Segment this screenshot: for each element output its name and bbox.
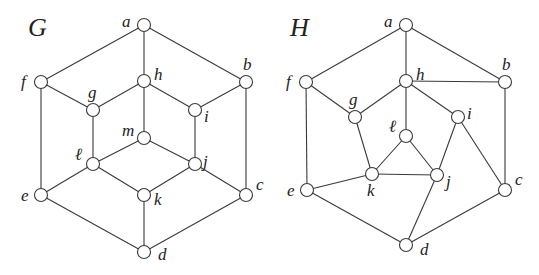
- edge-i-j: [437, 117, 458, 175]
- vertex-label-h: h: [154, 65, 163, 84]
- edge-e-d: [41, 195, 144, 252]
- vertex-i: [189, 104, 202, 117]
- vertex-h: [400, 75, 413, 88]
- edge-f-e: [306, 82, 307, 190]
- edge-j-d: [406, 175, 437, 245]
- vertex-label-h: h: [416, 65, 425, 84]
- vertex-label-d: d: [158, 245, 167, 264]
- vertex-label-e: e: [287, 181, 295, 200]
- graph-title-g: G: [28, 13, 47, 42]
- edge-h-i: [144, 81, 195, 110]
- graph-g: G afhbgimℓjekcd: [21, 12, 264, 264]
- vertex-label-c: c: [515, 170, 523, 189]
- vertex-label-f: f: [21, 72, 28, 91]
- edge-e-d: [307, 190, 406, 245]
- vertex-label-l: ℓ: [389, 117, 396, 136]
- vertex-label-c: c: [256, 175, 264, 194]
- vertex-g: [87, 104, 100, 117]
- vertex-f: [300, 76, 313, 89]
- vertex-f: [35, 76, 48, 89]
- vertex-b: [499, 76, 512, 89]
- vertex-label-d: d: [420, 240, 429, 259]
- vertex-label-b: b: [502, 55, 511, 74]
- vertex-b: [240, 76, 253, 89]
- edge-g-h: [355, 81, 406, 117]
- edge-i-c: [458, 117, 505, 190]
- edge-m-l: [93, 138, 144, 164]
- vertex-j: [431, 169, 444, 182]
- edge-i-b: [195, 82, 246, 110]
- vertex-label-f: f: [286, 72, 293, 91]
- vertex-label-e: e: [21, 186, 29, 205]
- vertex-label-k: k: [154, 190, 162, 209]
- edge-h-i: [406, 81, 458, 117]
- edge-l-k: [93, 164, 144, 195]
- vertex-i: [452, 111, 465, 124]
- edge-f-g: [306, 82, 355, 117]
- graph-diagram: G afhbgimℓjekcd H afhbgiℓkjecd: [0, 0, 539, 275]
- vertex-label-a: a: [122, 12, 131, 31]
- edge-a-f: [306, 25, 406, 82]
- vertex-h: [138, 75, 151, 88]
- graph-h: H afhbgiℓkjecd: [286, 12, 523, 259]
- edge-k-j: [372, 174, 437, 175]
- edge-f-g: [41, 82, 93, 110]
- vertex-label-m: m: [122, 121, 134, 140]
- vertex-a: [400, 19, 413, 32]
- edge-j-k: [144, 164, 195, 195]
- edge-a-f: [41, 25, 144, 82]
- vertex-a: [138, 19, 151, 32]
- vertex-label-j: j: [201, 152, 208, 171]
- vertex-label-b: b: [243, 55, 252, 74]
- vertex-c: [499, 184, 512, 197]
- vertex-d: [138, 246, 151, 259]
- edge-e-k: [307, 174, 372, 190]
- vertex-label-a: a: [384, 12, 393, 31]
- vertex-d: [400, 239, 413, 252]
- edge-c-d: [406, 190, 505, 245]
- vertex-g: [349, 111, 362, 124]
- graph-title-h: H: [289, 13, 310, 42]
- vertex-m: [138, 132, 151, 145]
- edge-g-k: [355, 117, 372, 174]
- vertex-k: [138, 189, 151, 202]
- vertex-e: [301, 184, 314, 197]
- vertex-label-g: g: [349, 90, 358, 109]
- edge-g-h: [93, 81, 144, 110]
- vertex-label-j: j: [444, 172, 451, 191]
- vertex-label-l: ℓ: [75, 145, 82, 164]
- edge-l-j: [406, 136, 437, 175]
- vertex-label-i: i: [467, 104, 472, 123]
- vertex-l: [87, 158, 100, 171]
- edge-l-k: [372, 136, 406, 174]
- vertex-label-k: k: [367, 181, 375, 200]
- vertex-l: [400, 130, 413, 143]
- vertex-label-g: g: [88, 83, 97, 102]
- vertices-h: afhbgiℓkjecd: [286, 12, 523, 259]
- vertex-c: [240, 189, 253, 202]
- vertex-e: [35, 189, 48, 202]
- vertex-label-i: i: [204, 107, 209, 126]
- edge-m-j: [144, 138, 195, 164]
- vertex-j: [189, 158, 202, 171]
- edge-l-e: [41, 164, 93, 195]
- vertices-g: afhbgimℓjekcd: [21, 12, 264, 264]
- vertex-k: [366, 168, 379, 181]
